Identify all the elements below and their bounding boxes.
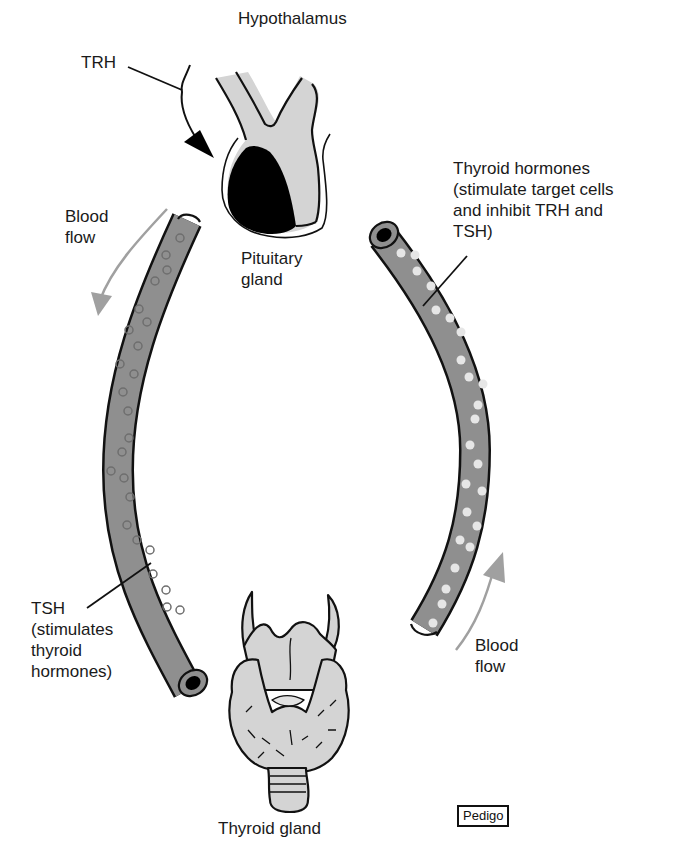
trh-label: TRH	[81, 52, 116, 73]
diagram-canvas	[0, 0, 676, 855]
right-blood-vessel	[365, 217, 488, 635]
credit-box: Pedigo	[457, 805, 509, 827]
blood-flow-left-label: Blood flow	[65, 206, 108, 248]
hypothalamus-label: Hypothalamus	[238, 8, 347, 29]
trh-arrow	[128, 65, 214, 158]
hypothalamus-pituitary-illustration	[216, 72, 330, 238]
thyroid-gland-label: Thyroid gland	[218, 818, 321, 839]
thyroid-hormones-label: Thyroid hormones (stimulate target cells…	[453, 158, 614, 242]
blood-flow-right-label: Blood flow	[475, 635, 518, 677]
tsh-label: TSH (stimulates thyroid hormones)	[31, 598, 113, 682]
thyroid-gland-illustration	[229, 592, 348, 812]
left-blood-vessel	[107, 215, 212, 702]
pituitary-gland-label: Pituitary gland	[241, 248, 302, 290]
